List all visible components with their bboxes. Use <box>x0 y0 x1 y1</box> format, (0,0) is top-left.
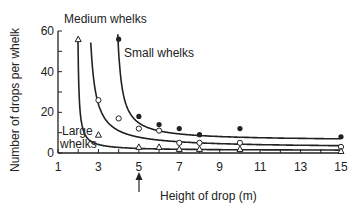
point-small <box>177 126 182 131</box>
whelk-drop-chart: 020406013579111315 Medium whelks Small w… <box>0 0 354 215</box>
x-tick-label: 11 <box>254 160 267 174</box>
x-tick-label: 1 <box>55 160 62 174</box>
y-tick-label: 20 <box>41 105 55 119</box>
y-tick-label: 60 <box>41 24 55 38</box>
point-medium <box>136 126 141 131</box>
medium-whelks-label: Medium whelks <box>64 12 147 26</box>
large-whelks-label-line1: Large <box>62 124 93 138</box>
x-tick-label: 7 <box>176 160 183 174</box>
point-medium <box>237 140 242 145</box>
point-medium <box>177 140 182 145</box>
x-axis-label: Height of drop (m) <box>160 189 257 203</box>
point-medium <box>156 128 161 133</box>
point-small <box>136 114 141 119</box>
point-medium <box>96 98 101 103</box>
large-whelks-label-line2: whelks <box>59 137 97 151</box>
point-large <box>75 36 81 42</box>
point-small <box>237 126 242 131</box>
point-medium <box>197 140 202 145</box>
axes: 020406013579111315 <box>41 24 348 174</box>
point-small <box>116 37 121 42</box>
point-medium <box>116 116 121 121</box>
y-tick-label: 0 <box>47 146 54 160</box>
point-small <box>338 134 343 139</box>
x-tick-label: 3 <box>95 160 102 174</box>
point-large <box>136 144 142 150</box>
small-whelks-label: Small whelks <box>124 46 194 60</box>
x-tick-label: 15 <box>334 160 348 174</box>
arrow-annotation <box>136 172 143 192</box>
point-small <box>156 122 161 127</box>
fitted-curves <box>78 34 341 150</box>
curve-large-whelks <box>78 42 341 150</box>
y-tick-label: 40 <box>41 65 55 79</box>
x-tick-label: 9 <box>216 160 223 174</box>
y-axis-label: Number of drops per whelk <box>8 27 22 172</box>
point-small <box>197 132 202 137</box>
point-large <box>197 146 203 152</box>
x-tick-label: 13 <box>294 160 308 174</box>
point-large <box>156 144 162 150</box>
point-large <box>237 146 243 152</box>
x-tick-label: 5 <box>136 160 143 174</box>
